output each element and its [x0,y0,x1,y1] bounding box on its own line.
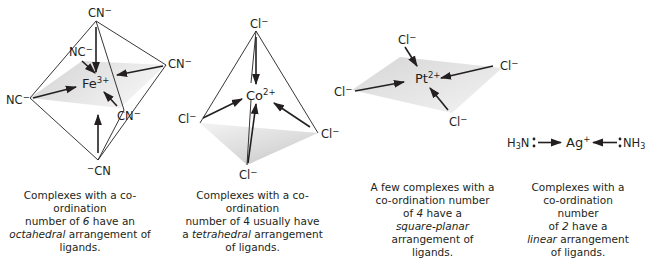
caption-square-planar: A few complexes with a co-ordination num… [370,181,495,259]
caption-line: ligands. [0,241,160,254]
caption-tetrahedral: Complexes with a co-ordination number of… [175,189,330,254]
caption-octahedral: Complexes with a co-ordination number of… [0,189,160,254]
ligand-cl-top: Cl− [398,32,416,47]
caption-line: A few complexes with a [370,181,495,194]
ligand-cn-right: CN− [168,56,192,71]
geometry-term: tetrahedral [192,228,251,240]
linear-complex: H3N Ag+ NH3 [507,134,645,151]
ligand-cn-top: CN− [88,5,112,20]
caption-line: of 2 have a [523,220,633,233]
geometry-term: octahedral [9,228,65,240]
square-planar-complex: Cl− Cl− Cl− Cl− Pt2+ [334,32,518,129]
caption-line: arrangement of ligands. [370,233,495,259]
central-ion-co: Co2+ [246,87,276,103]
caption-line: linear arrangement [523,233,633,246]
ligand-nh3-right: NH3 [623,136,645,151]
caption-line: square-planar [370,220,495,233]
caption-line: octahedral arrangement of [0,228,160,241]
caption-line: of ligands. [523,246,633,259]
ligand-cn-front: CN− [117,108,141,123]
ligand-cl-left: Cl− [178,111,196,126]
tetrahedron-base [200,123,318,165]
tetrahedral-complex: Cl− Cl− Cl− Cl− Co2+ [178,16,339,182]
geometry-term: linear [527,233,557,245]
caption-line: of 4 have a [370,207,495,220]
caption-line: co-ordination number [370,194,495,207]
caption-line: co-ordination number [523,194,633,220]
ligand-cn-bottom: −CN [87,163,111,178]
lone-pair-right [619,138,622,148]
ligand-cl-top: Cl− [250,16,268,31]
ligand-cl-right: Cl− [500,58,518,73]
caption-line: number of 6 have an [0,215,160,228]
caption-line: a tetrahedral arrangement [175,228,330,241]
ligand-cl-bottom: Cl− [239,167,257,182]
central-ion-ag: Ag+ [566,134,590,150]
ligand-nh3-left: H3N [507,136,529,151]
ligand-cl-bottom: Cl− [449,114,467,129]
caption-line: of ligands. [175,241,330,254]
ligand-nc-left: NC− [6,92,30,107]
caption-line: number of 4 usually have [175,215,330,228]
ligand-nc-back: NC− [69,44,93,59]
lone-pair-left [533,138,536,148]
caption-line: Complexes with a [523,181,633,194]
ligand-cl-left: Cl− [334,84,352,99]
octahedral-complex: CN− NC− CN− NC− CN− −CN Fe3+ [6,5,192,178]
caption-linear: Complexes with a co-ordination number of… [523,181,633,259]
ligand-cl-right: Cl− [321,126,339,141]
caption-line: Complexes with a co-ordination [0,189,160,215]
caption-line: Complexes with a co-ordination [175,189,330,215]
geometry-term: square-planar [396,220,469,232]
